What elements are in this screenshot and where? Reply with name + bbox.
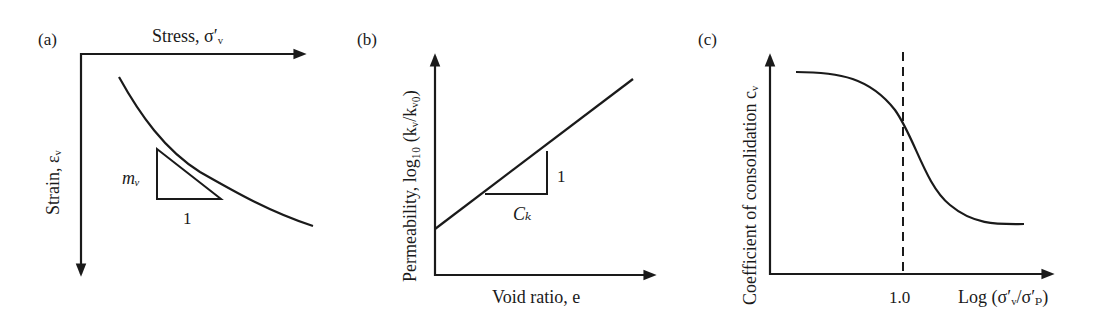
panel-a-xlabel: Stress, σ′ᵥ [152,26,224,46]
cv-curve [796,72,1024,224]
slope-triangle [157,149,221,199]
compression-curve [119,77,313,226]
unit-label: 1 [183,209,192,228]
panel-a: (a) Stress, σ′ᵥ Strain, εᵥ mᵥ 1 [38,26,313,274]
panel-b-label: (b) [357,30,377,49]
panel-c: (c) Coefficient of consolidation cᵥ 1.0 … [698,30,1052,308]
panel-b-xlabel: Void ratio, e [492,287,580,307]
panel-c-xlabel: Log (σ′ᵥ/σ′ₚ) [958,287,1048,308]
panel-a-label: (a) [38,30,57,49]
unit-label: 1 [557,167,566,186]
ck-label: Cₖ [513,204,532,224]
slope-triangle [485,151,547,194]
panel-c-ylabel: Coefficient of consolidation cᵥ [740,85,760,305]
panel-c-label: (c) [698,30,717,49]
panel-b: (b) Permeability, log₁₀ (kᵥ/kᵥ₀) Void ra… [357,30,654,307]
tick-label-1: 1.0 [889,288,910,307]
panel-a-ylabel: Strain, εᵥ [43,149,63,215]
figure: (a) Stress, σ′ᵥ Strain, εᵥ mᵥ 1 (b) Perm… [0,0,1105,329]
panel-b-ylabel: Permeability, log₁₀ (kᵥ/kᵥ₀) [400,90,421,282]
permeability-line [435,79,633,229]
mv-label: mᵥ [122,168,140,188]
